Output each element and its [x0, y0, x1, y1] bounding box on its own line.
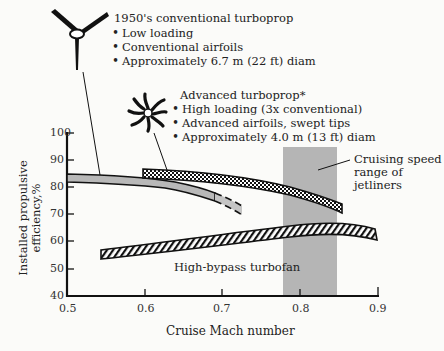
eight-blade-propfan-icon	[129, 94, 166, 131]
y-tick-70: 70	[50, 207, 64, 220]
advanced-bullet-3: Approximately 4.0 m (13 ft) diam	[172, 131, 376, 145]
turbofan-label: High-bypass turbofan	[174, 261, 300, 274]
y-tick-50: 50	[50, 262, 64, 275]
y-tick-40: 40	[50, 289, 64, 302]
x-tick-0.6: 0.6	[137, 302, 155, 315]
x-axis-title: Cruise Mach number	[166, 325, 295, 338]
conventional-leader-line	[83, 72, 100, 175]
conventional-bullet-3: Approximately 6.7 m (22 ft) diam	[112, 55, 316, 69]
x-tick-0.7: 0.7	[213, 302, 231, 315]
advanced-turboprop-title: Advanced turboprop*	[180, 89, 305, 102]
x-tick-0.8: 0.8	[292, 302, 310, 315]
y-axis-title-line-2: efficiency,%	[30, 148, 43, 288]
y-axis-title: Installed propulsive efficiency,%	[17, 148, 43, 288]
conventional-bullet-1: Low loading	[112, 27, 193, 41]
three-blade-propeller-icon	[51, 9, 109, 70]
y-tick-60: 60	[50, 234, 64, 247]
conventional-turboprop-title: 1950's conventional turboprop	[114, 12, 293, 25]
y-tick-90: 90	[50, 153, 64, 166]
advanced-bullet-1: High loading (3x conventional)	[172, 103, 362, 117]
x-tick-0.9: 0.9	[369, 302, 387, 315]
y-tick-80: 80	[50, 180, 64, 193]
y-tick-100: 100	[50, 126, 71, 139]
conventional-bullet-2: Conventional airfoils	[112, 41, 243, 55]
advanced-bullet-2: Advanced airfoils, swept tips	[172, 117, 350, 131]
x-tick-0.5: 0.5	[59, 302, 77, 315]
cruise-label-line-3: jetliners	[354, 179, 402, 192]
advanced-leader-line	[154, 133, 167, 170]
